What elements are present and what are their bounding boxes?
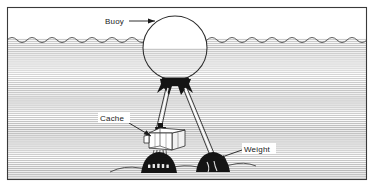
figure-root: Buoy Cache Weight xyxy=(0,0,374,187)
weight-label: Weight xyxy=(244,145,271,154)
deep-water-hatching xyxy=(7,96,367,180)
cache-label: Cache xyxy=(100,114,124,123)
scene: Buoy Cache Weight xyxy=(7,7,367,180)
buoy-label: Buoy xyxy=(105,17,124,26)
mooring-diagram: Buoy Cache Weight xyxy=(0,0,374,187)
